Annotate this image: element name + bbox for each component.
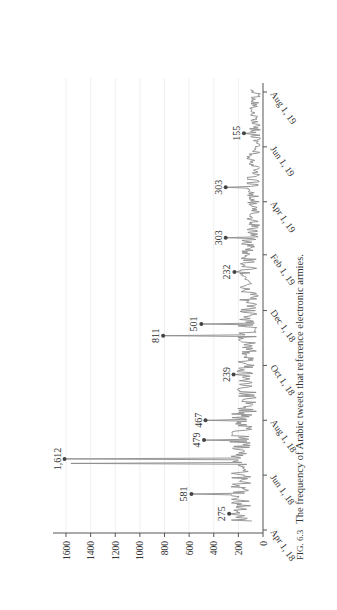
- chart-svg: 2755811,612479467239811501232303303155 0…: [0, 0, 337, 610]
- peak-label: 501: [188, 317, 199, 332]
- peak-label: 303: [213, 180, 224, 195]
- peak-marker: [189, 492, 193, 496]
- value-tick-label: 1400: [86, 541, 96, 560]
- value-tick-label: 0: [259, 541, 269, 546]
- value-tick-label: 1000: [135, 541, 145, 560]
- caption-label: FIG. 6.3: [295, 529, 305, 560]
- time-tick-label: Oct 1, 18: [268, 363, 296, 398]
- peak-marker: [204, 418, 208, 422]
- value-tick-label: 400: [209, 541, 219, 556]
- peak-label: 239: [221, 367, 232, 382]
- peak-marker: [232, 270, 236, 274]
- peak-label: 303: [213, 230, 224, 245]
- peak-label: 1,612: [52, 448, 63, 471]
- time-tick-label: Jun 1, 18: [268, 473, 296, 507]
- peak-label: 581: [178, 487, 189, 502]
- gridlines: [66, 78, 238, 533]
- peak-marker: [199, 322, 203, 326]
- peak-marker: [63, 457, 67, 461]
- value-tick-label: 1200: [111, 541, 121, 560]
- peak-label: 275: [216, 506, 227, 521]
- time-tick-label: Apr 1, 18: [268, 527, 297, 563]
- peak-marker: [232, 372, 236, 376]
- peak-marker: [224, 185, 228, 189]
- time-tick-label: Aug 1, 19: [268, 89, 298, 126]
- value-tick-label: 1600: [62, 541, 72, 560]
- axes: 02004006008001000120014001600Apr 1, 18Ju…: [53, 83, 298, 563]
- value-tick-label: 800: [160, 541, 170, 556]
- peak-label: 155: [231, 126, 242, 141]
- caption-text: FIG. 6.3The frequency of Arabic tweets t…: [294, 254, 305, 560]
- peak-marker: [161, 334, 165, 338]
- peak-label: 479: [191, 433, 202, 448]
- value-tick-label: 200: [234, 541, 244, 556]
- value-tick-label: 600: [185, 541, 195, 556]
- peak-label: 467: [193, 413, 204, 428]
- series-line: [65, 89, 261, 521]
- peak-marker: [224, 236, 228, 240]
- peak-marker: [227, 512, 231, 516]
- peak-label: 232: [221, 264, 232, 279]
- time-tick-label: Feb 1, 19: [268, 252, 297, 287]
- caption-body: The frequency of Arabic tweets that refe…: [294, 254, 305, 524]
- peak-marker: [202, 438, 206, 442]
- time-tick-label: Jun 1, 19: [268, 144, 296, 178]
- tweet-frequency-line: [65, 89, 261, 521]
- peak-marker: [242, 131, 246, 135]
- rotated-line-chart: 2755811,612479467239811501232303303155 0…: [0, 0, 337, 610]
- peak-label: 811: [150, 328, 161, 343]
- figure-caption: FIG. 6.3The frequency of Arabic tweets t…: [294, 254, 305, 560]
- time-tick-label: Apr 1, 19: [268, 199, 297, 235]
